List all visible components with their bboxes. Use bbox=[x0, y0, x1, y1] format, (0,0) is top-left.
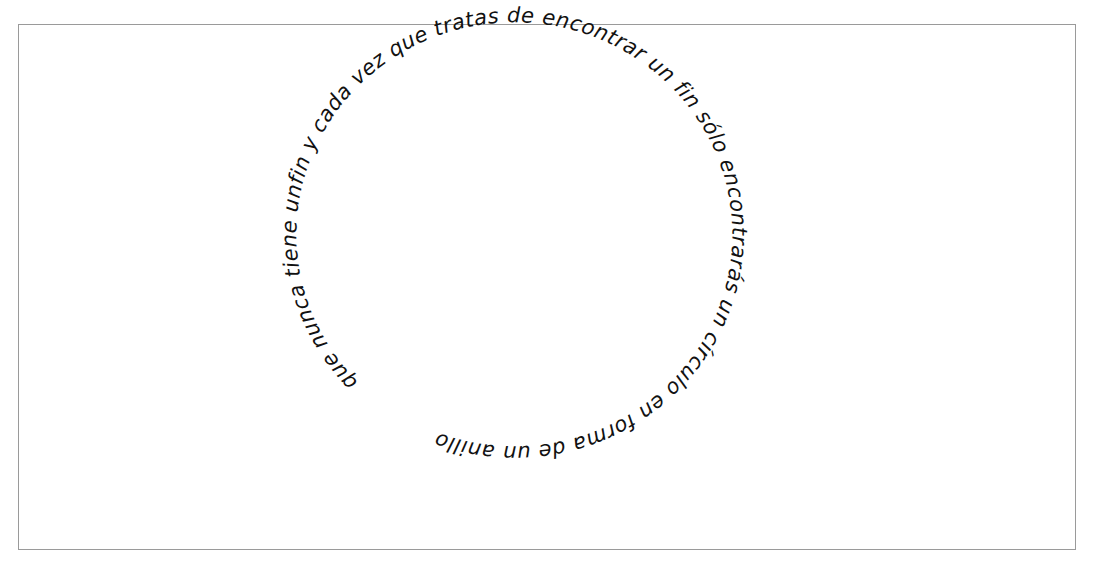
circular-text-artwork: que nunca tiene unfin y cada vez que tra… bbox=[0, 0, 1096, 574]
circular-phrase-path: que nunca tiene unfin y cada vez que tra… bbox=[277, 3, 751, 465]
circular-phrase: que nunca tiene unfin y cada vez que tra… bbox=[277, 3, 751, 465]
